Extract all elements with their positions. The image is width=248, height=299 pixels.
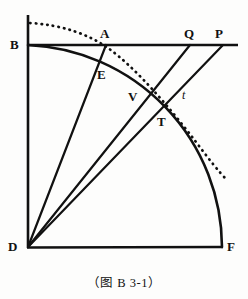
vertex-label-D: D [8, 240, 17, 253]
vertex-label-P: P [215, 27, 223, 40]
ray-d-q [28, 45, 190, 247]
vertex-label-B: B [10, 38, 19, 51]
vertex-label-V: V [128, 90, 137, 103]
vertex-label-E: E [97, 68, 106, 81]
vertex-label-A: A [100, 27, 109, 40]
geometry-figure: B A Q P E V t T D F （图 B 3-1） [0, 0, 248, 299]
vertex-label-F: F [227, 240, 235, 253]
diagram-canvas [0, 0, 248, 299]
base-line-df [27, 247, 223, 248]
vertex-label-Q: Q [184, 27, 194, 40]
vertex-label-T: T [157, 115, 166, 128]
figure-caption: （图 B 3-1） [0, 272, 248, 291]
vertex-label-t: t [182, 89, 185, 101]
ray-d-a [28, 45, 106, 247]
